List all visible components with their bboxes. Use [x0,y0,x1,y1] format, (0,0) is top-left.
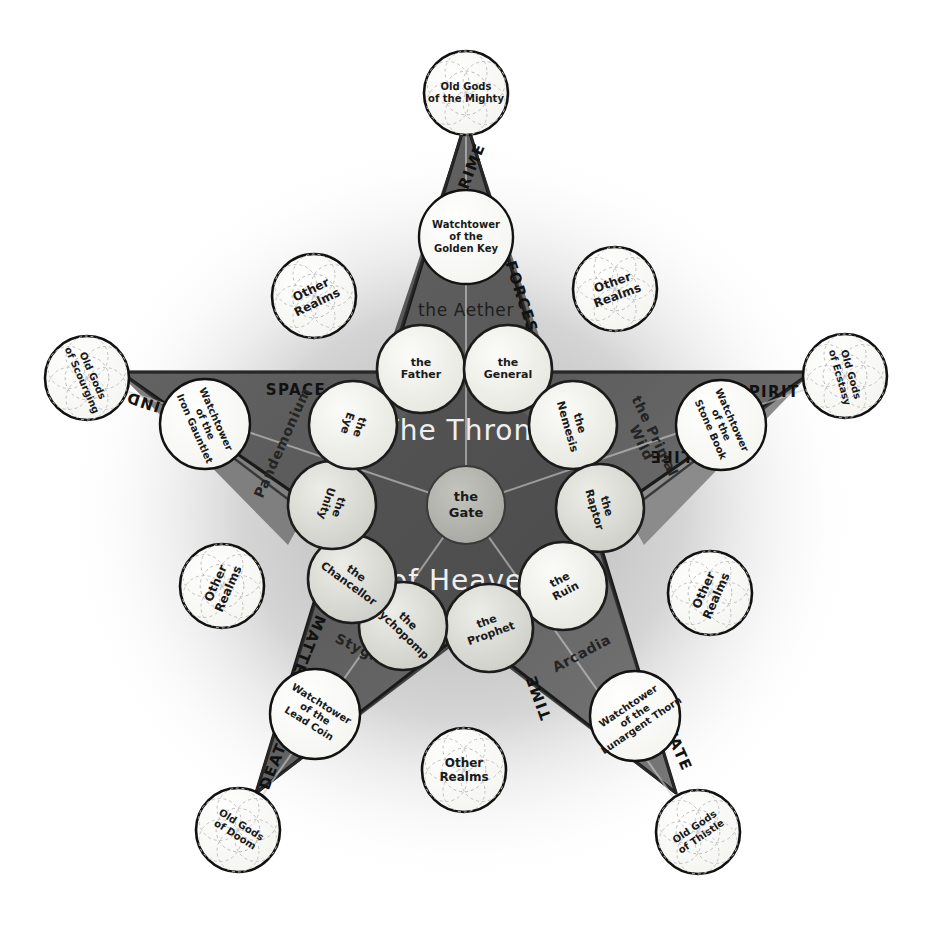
node-old-gods-of-doom[interactable]: Old Godsof Doom [196,788,280,872]
node-the-unity[interactable]: theUnity [288,461,376,549]
node-other-realms-2[interactable]: OtherRealms [573,247,657,331]
node-other-realms-3[interactable]: OtherRealms [668,551,752,635]
node-old-gods-of-thistle[interactable]: Old Godsof Thistle [656,790,740,874]
node-the-eye[interactable]: theEye [309,381,397,469]
node-old-gods-of-the-mighty[interactable]: Old Godsof the Mighty [424,51,508,135]
node-watchtower-of-the-lunargent-thorn-circle [590,671,680,761]
node-watchtower-of-the-iron-gauntlet[interactable]: Watchtowerof theIron Gauntlet [160,379,250,469]
node-old-gods-of-ecstasy[interactable]: Old Godsof Ecstasy [803,334,887,418]
realm-label-the-aether: the Aether [418,300,514,320]
node-the-eye-circle [309,381,397,469]
node-watchtower-of-the-lead-coin-circle [270,669,360,759]
node-other-realms-4[interactable]: OtherRealms [422,728,506,812]
node-old-gods-of-scourging[interactable]: Old Godsof Scourging [45,336,129,420]
node-the-raptor-circle [556,464,644,552]
node-the-nemesis[interactable]: theNemesis [529,381,617,469]
node-the-unity-circle [288,461,376,549]
node-the-gate-circle [427,466,505,544]
diagram-canvas: The Throne of Heaven PRIMEFORCESSPIRITLI… [0,0,927,935]
center-node-group: theGate [427,466,505,544]
node-the-prophet-circle [445,584,533,672]
node-the-nemesis-circle [529,381,617,469]
node-watchtower-of-the-stone-book-circle [676,380,766,470]
node-other-realms-5[interactable]: OtherRealms [180,544,264,628]
node-watchtower-of-the-iron-gauntlet-circle [160,379,250,469]
node-other-realms-1[interactable]: OtherRealms [272,254,356,338]
node-the-prophet[interactable]: theProphet [445,584,533,672]
node-watchtower-of-the-golden-key-circle [419,190,513,284]
node-the-raptor[interactable]: theRaptor [556,464,644,552]
node-watchtower-of-the-stone-book[interactable]: Watchtowerof theStone Book [676,380,766,470]
node-watchtower-of-the-lead-coin[interactable]: Watchtowerof theLead Coin [270,669,360,759]
node-the-gate[interactable]: theGate [427,466,505,544]
throne-of-heaven-diagram: The Throne of Heaven PRIMEFORCESSPIRITLI… [0,0,927,935]
page-title-line1: The Throne [381,414,551,447]
node-watchtower-of-the-golden-key[interactable]: Watchtowerof theGolden Key [419,190,513,284]
